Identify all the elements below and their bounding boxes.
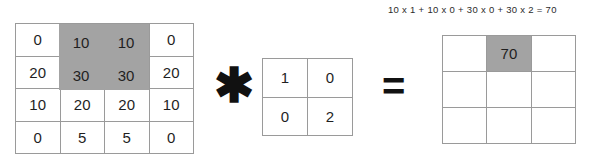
input-cell-2-2: 20	[105, 89, 149, 121]
convolution-operator-icon: ✱	[214, 62, 254, 110]
kernel-cell-1-0: 0	[263, 98, 307, 136]
input-cell-3-1: 5	[61, 122, 105, 154]
input-cell-0-3: 0	[150, 24, 194, 56]
input-cell-0-0: 0	[16, 24, 60, 56]
input-cell-1-0: 20	[16, 57, 60, 89]
output-cell-2-2	[532, 108, 575, 143]
output-matrix: 70	[442, 35, 576, 144]
kernel-matrix: 1 0 0 2	[262, 58, 353, 136]
input-cell-1-3: 20	[150, 57, 194, 89]
input-cell-2-3: 10	[150, 89, 194, 121]
output-cell-0-1: 70	[487, 36, 530, 71]
output-cell-0-2	[532, 36, 575, 71]
kernel-cell-0-0: 1	[263, 59, 307, 97]
input-cell-0-2: 10	[105, 24, 149, 56]
output-cell-1-2	[532, 72, 575, 107]
input-cell-3-0: 0	[16, 122, 60, 154]
input-matrix: 0 10 10 0 20 30 30 20 10 20 20 10 0 5 5 …	[15, 23, 194, 154]
input-cell-2-1: 20	[61, 89, 105, 121]
output-cell-2-1	[487, 108, 530, 143]
input-cell-0-1: 10	[61, 24, 105, 56]
equals-operator-icon: =	[382, 66, 405, 106]
output-cell-1-1	[487, 72, 530, 107]
convolution-formula: 10 x 1 + 10 x 0 + 30 x 0 + 30 x 2 = 70	[388, 4, 557, 15]
input-cell-3-2: 5	[105, 122, 149, 154]
input-cell-1-1: 30	[61, 57, 105, 89]
input-cell-3-3: 0	[150, 122, 194, 154]
output-cell-1-0	[443, 72, 486, 107]
output-cell-0-0	[443, 36, 486, 71]
input-cell-2-0: 10	[16, 89, 60, 121]
kernel-cell-0-1: 0	[308, 59, 352, 97]
kernel-cell-1-1: 2	[308, 98, 352, 136]
input-cell-1-2: 30	[105, 57, 149, 89]
output-cell-2-0	[443, 108, 486, 143]
